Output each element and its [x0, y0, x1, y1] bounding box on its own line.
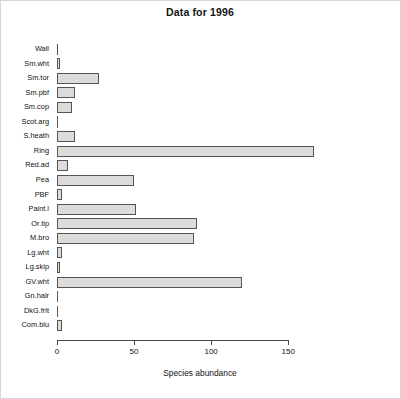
bar-row [57, 158, 319, 173]
bar-row [57, 71, 319, 86]
category-label: Gn.hair [25, 289, 49, 304]
category-label: S.heath [24, 129, 49, 144]
bar-row [57, 217, 319, 232]
bar [57, 320, 62, 331]
bar-row [57, 100, 319, 115]
x-axis-tick-label: 150 [281, 347, 294, 356]
bar-row [57, 129, 319, 144]
bar-row [57, 246, 319, 261]
category-axis-labels: WallSm.whtSm.torSm.pbfSm.copScot.argS.he… [0, 42, 53, 333]
bar [57, 189, 62, 200]
bar-row [57, 42, 319, 57]
bar [57, 247, 62, 258]
category-label: Paint.l [28, 202, 49, 217]
bar [57, 44, 58, 55]
x-axis-tick-label: 50 [130, 347, 139, 356]
category-label: Red.ad [25, 158, 49, 173]
bar [57, 102, 72, 113]
bar-row [57, 57, 319, 72]
bar [57, 131, 75, 142]
category-label: Lg.skip [26, 260, 49, 275]
bar [57, 291, 58, 302]
category-label: Ring [34, 144, 49, 159]
bar [57, 233, 194, 244]
bar [57, 58, 60, 69]
bar [57, 306, 58, 317]
category-label: Sm.wht [24, 57, 49, 72]
bar [57, 175, 134, 186]
bar [57, 218, 197, 229]
category-label: Sm.cop [24, 100, 49, 115]
bar [57, 87, 75, 98]
category-label: DkG.frit [24, 304, 49, 319]
category-label: Com.blu [21, 318, 49, 333]
category-label: Sm.tor [27, 71, 49, 86]
bar-row [57, 188, 319, 203]
category-label: Lg.wht [27, 246, 49, 261]
x-axis-tick-label: 0 [55, 347, 59, 356]
bar-row [57, 289, 319, 304]
bar-row [57, 144, 319, 159]
bar-row [57, 173, 319, 188]
x-axis-line [57, 340, 288, 341]
category-label: Sm.pbf [26, 86, 49, 101]
x-axis-tick [211, 340, 212, 345]
plot-area [57, 42, 319, 333]
bar-row [57, 304, 319, 319]
bar-row [57, 86, 319, 101]
bar [57, 146, 314, 157]
bar-row [57, 231, 319, 246]
category-label: PBF [35, 188, 49, 203]
bar-rows [57, 42, 319, 333]
bar [57, 116, 58, 127]
bar-row [57, 260, 319, 275]
bar [57, 277, 242, 288]
category-label: GV.wht [25, 275, 49, 290]
bar [57, 204, 136, 215]
x-axis-tick [57, 340, 58, 345]
category-label: Or.tip [31, 217, 49, 232]
x-axis-tick [134, 340, 135, 345]
bar-row [57, 202, 319, 217]
category-label: Scot.arg [21, 115, 49, 130]
x-axis-title: Species abundance [0, 368, 400, 378]
x-axis-tick-label: 100 [204, 347, 217, 356]
bar [57, 262, 60, 273]
bar-row [57, 318, 319, 333]
category-label: Wall [35, 42, 49, 57]
bar-row [57, 275, 319, 290]
bar-row [57, 115, 319, 130]
bar [57, 73, 99, 84]
chart-title: Data for 1996 [0, 6, 400, 18]
category-label: M.bro [30, 231, 49, 246]
bar [57, 160, 68, 171]
category-label: Pea [36, 173, 49, 188]
x-axis-tick [288, 340, 289, 345]
